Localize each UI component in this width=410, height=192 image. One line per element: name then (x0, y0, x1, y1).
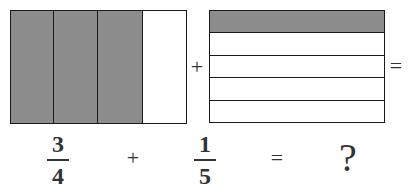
left-part-3-shaded (98, 11, 143, 123)
denominator: 4 (47, 164, 69, 188)
right-part-2-empty (210, 33, 384, 56)
left-fraction-model (10, 10, 187, 124)
plus-sign: + (127, 147, 139, 169)
right-part-4-empty (210, 78, 384, 101)
left-part-1-shaded (11, 11, 54, 123)
right-part-1-shaded (210, 11, 384, 33)
left-part-4-empty (143, 11, 186, 123)
right-part-3-empty (210, 56, 384, 78)
right-part-5-empty (210, 101, 384, 122)
top-plus-sign: + (191, 56, 203, 78)
right-fraction-model (209, 10, 385, 123)
unknown-answer: ? (339, 138, 357, 178)
left-part-2-shaded (54, 11, 98, 123)
numerator: 1 (194, 132, 216, 156)
fraction-bar (47, 159, 69, 161)
numerator: 3 (47, 132, 69, 156)
fraction-three-quarters: 3 4 (47, 132, 69, 188)
equals-sign: = (271, 147, 283, 169)
top-equals-sign: = (390, 55, 402, 77)
denominator: 5 (194, 164, 216, 188)
fraction-bar (194, 159, 216, 161)
fraction-one-fifth: 1 5 (194, 132, 216, 188)
